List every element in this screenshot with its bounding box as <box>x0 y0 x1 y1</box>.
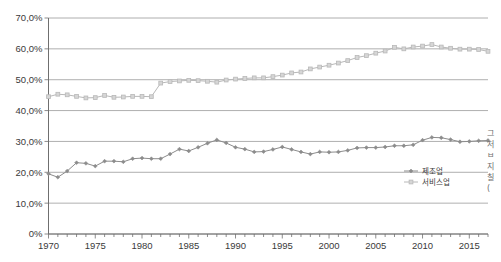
data-point-marker <box>234 77 238 81</box>
data-point-marker <box>121 95 125 99</box>
x-tick-label: 1980 <box>131 240 152 251</box>
side-note-line: 저 <box>487 139 501 150</box>
data-point-marker <box>271 148 275 152</box>
data-point-marker <box>131 94 135 98</box>
data-point-marker <box>149 157 153 161</box>
data-point-marker <box>206 141 210 145</box>
y-tick-label: 20,0% <box>16 167 43 178</box>
gridlines <box>49 18 489 234</box>
data-point-marker <box>93 96 97 100</box>
data-point-marker <box>290 71 294 75</box>
data-point-marker <box>430 136 434 140</box>
legend-item-1[interactable]: 제조업 <box>404 167 443 176</box>
y-tick-label: 30,0% <box>16 136 43 147</box>
data-point-marker <box>252 76 256 80</box>
legend-marker <box>409 180 413 184</box>
data-point-marker <box>327 63 331 67</box>
data-point-marker <box>308 67 312 71</box>
side-note-line: 칠 <box>487 172 501 183</box>
data-point-marker <box>365 146 369 150</box>
data-point-marker <box>477 139 481 143</box>
data-point-marker <box>121 160 125 164</box>
data-point-marker <box>112 159 116 163</box>
data-point-marker <box>84 96 88 100</box>
data-point-marker <box>215 80 219 84</box>
data-point-marker <box>140 94 144 98</box>
data-point-marker <box>383 49 387 53</box>
data-point-marker <box>103 159 107 163</box>
x-tick-label: 2000 <box>318 240 339 251</box>
data-point-marker <box>336 150 340 154</box>
data-point-marker <box>355 56 359 60</box>
data-point-marker <box>365 54 369 58</box>
data-point-marker <box>187 149 191 153</box>
data-point-marker <box>131 157 135 161</box>
data-point-marker <box>262 76 266 80</box>
data-point-marker <box>280 73 284 77</box>
legend-label: 서비스업 <box>422 178 450 187</box>
data-point-marker <box>168 80 172 84</box>
data-point-marker <box>196 145 200 149</box>
data-point-marker <box>280 145 284 149</box>
data-point-marker <box>411 143 415 147</box>
y-tick-label: 10,0% <box>16 198 43 209</box>
y-axis-tick-labels: 0%10,0%20,0%30,0%40,0%50,0%60,0%70,0% <box>16 12 49 239</box>
x-tick-label: 2005 <box>365 240 386 251</box>
data-point-marker <box>65 93 69 97</box>
x-tick-label: 1995 <box>272 240 293 251</box>
data-point-marker <box>355 146 359 150</box>
data-point-marker <box>411 45 415 49</box>
legend-item-2[interactable]: 서비스업 <box>404 178 450 187</box>
data-point-marker <box>93 164 97 168</box>
x-axis-ticks <box>49 234 489 239</box>
data-point-marker <box>402 144 406 148</box>
data-point-marker <box>327 150 331 154</box>
y-tick-label: 50,0% <box>16 74 43 85</box>
side-note-line: 지 <box>487 161 501 172</box>
data-point-marker <box>336 61 340 65</box>
data-point-marker <box>308 152 312 156</box>
data-point-marker <box>252 150 256 154</box>
data-point-marker <box>439 45 443 49</box>
data-point-marker <box>458 140 462 144</box>
data-point-marker <box>383 145 387 149</box>
data-point-marker <box>84 161 88 165</box>
data-point-marker <box>449 138 453 142</box>
data-point-marker <box>243 77 247 81</box>
data-point-marker <box>159 157 163 161</box>
data-point-marker <box>140 156 144 160</box>
data-point-marker <box>393 45 397 49</box>
data-point-marker <box>290 148 294 152</box>
data-point-marker <box>103 94 107 98</box>
data-point-marker <box>112 95 116 99</box>
data-point-marker <box>178 79 182 83</box>
y-tick-label: 70,0% <box>16 12 43 23</box>
data-point-marker <box>486 49 490 53</box>
y-tick-label: 60,0% <box>16 43 43 54</box>
x-tick-label: 1975 <box>85 240 106 251</box>
x-tick-label: 1990 <box>225 240 246 251</box>
side-note-text: 그저ㅂ지칠( <box>487 128 501 194</box>
series-line <box>49 45 489 98</box>
data-point-marker <box>271 75 275 79</box>
data-point-marker <box>196 79 200 83</box>
data-point-marker <box>318 150 322 154</box>
chart-legend: 제조업서비스업 <box>404 167 450 187</box>
data-point-marker <box>56 92 60 96</box>
data-point-marker <box>262 150 266 154</box>
side-note-line: 그 <box>487 128 501 139</box>
x-tick-label: 1985 <box>178 240 199 251</box>
data-point-marker <box>458 47 462 51</box>
data-point-marker <box>75 94 79 98</box>
series-2 <box>47 43 490 100</box>
data-point-marker <box>168 152 172 156</box>
data-point-marker <box>402 47 406 51</box>
data-point-marker <box>374 146 378 150</box>
data-point-marker <box>149 95 153 99</box>
line-chart: 0%10,0%20,0%30,0%40,0%50,0%60,0%70,0% 19… <box>0 0 501 262</box>
data-point-marker <box>430 43 434 47</box>
x-tick-label: 2010 <box>412 240 433 251</box>
data-point-marker <box>346 148 350 152</box>
chart-container: 0%10,0%20,0%30,0%40,0%50,0%60,0%70,0% 19… <box>0 0 501 262</box>
data-point-marker <box>318 65 322 69</box>
